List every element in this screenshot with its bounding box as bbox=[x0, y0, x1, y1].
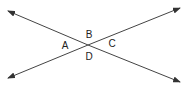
angle-diagram: B A C D bbox=[0, 0, 182, 108]
angle-label-a: A bbox=[62, 41, 69, 51]
line-2-ext bbox=[88, 8, 180, 45]
angle-label-d: D bbox=[85, 52, 92, 62]
angle-label-c: C bbox=[108, 39, 115, 49]
line-1 bbox=[8, 11, 88, 45]
line-1-ext bbox=[88, 45, 180, 82]
line-2 bbox=[8, 45, 88, 78]
angle-label-b: B bbox=[86, 30, 93, 40]
